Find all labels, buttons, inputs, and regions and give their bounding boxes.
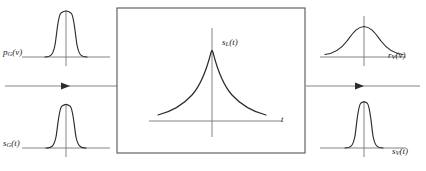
input-arrow-head [61, 82, 70, 89]
label-top-right-spectrum: rV(ν) [388, 51, 406, 61]
label-center-axis: t [281, 115, 284, 124]
input-arrow [5, 82, 117, 89]
panel-top-left-gaussian-spectrum [22, 10, 110, 66]
signal-spectrum-diagram: pG(ν) sG(t) sL(t) t rV(ν) sV(t) [0, 0, 426, 171]
label-top-left-spectrum: pG(ν) [3, 48, 22, 58]
output-arrow-head [355, 82, 364, 89]
diagram-canvas [0, 0, 426, 171]
processing-block [117, 8, 305, 153]
label-bottom-right-signal: sV(t) [392, 147, 408, 157]
processing-block-border [117, 8, 305, 153]
label-bottom-left-signal: sG(t) [3, 139, 20, 149]
panel-bottom-left-gaussian-signal [22, 104, 110, 157]
label-center-signal: sL(t) [222, 38, 238, 48]
output-arrow [306, 82, 420, 89]
